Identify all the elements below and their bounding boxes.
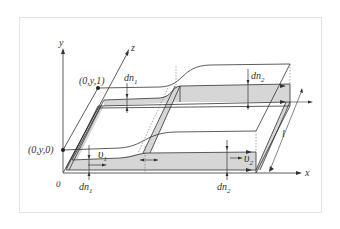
channel-diagram: y z x 0 (0,y,1) (0,y,0) dn1 dn2 dn1 dn2 …: [0, 0, 340, 229]
y-axis-label: y: [58, 37, 64, 48]
origin-label: 0: [56, 179, 61, 189]
z-axis-label: z: [130, 42, 135, 53]
x-axis-arrow-icon: [296, 171, 302, 175]
dn1-bottom-label: dn1: [79, 181, 93, 195]
z-axis-arrow-icon: [125, 49, 129, 56]
dn2-top-label: dn2: [251, 70, 265, 84]
point-bottom-label: (0,y,0): [28, 144, 54, 156]
y-axis-arrow-icon: [61, 48, 65, 54]
point-top-label: (0,y,1): [79, 75, 105, 87]
dn1-top-label: dn1: [124, 72, 138, 86]
dn2-bottom-label: dn2: [217, 181, 231, 195]
length-label: l: [282, 128, 285, 139]
point-top-marker: [96, 86, 100, 90]
point-bottom-marker: [61, 148, 65, 152]
v1-label: υ1: [98, 147, 107, 163]
x-axis-label: x: [304, 167, 310, 178]
